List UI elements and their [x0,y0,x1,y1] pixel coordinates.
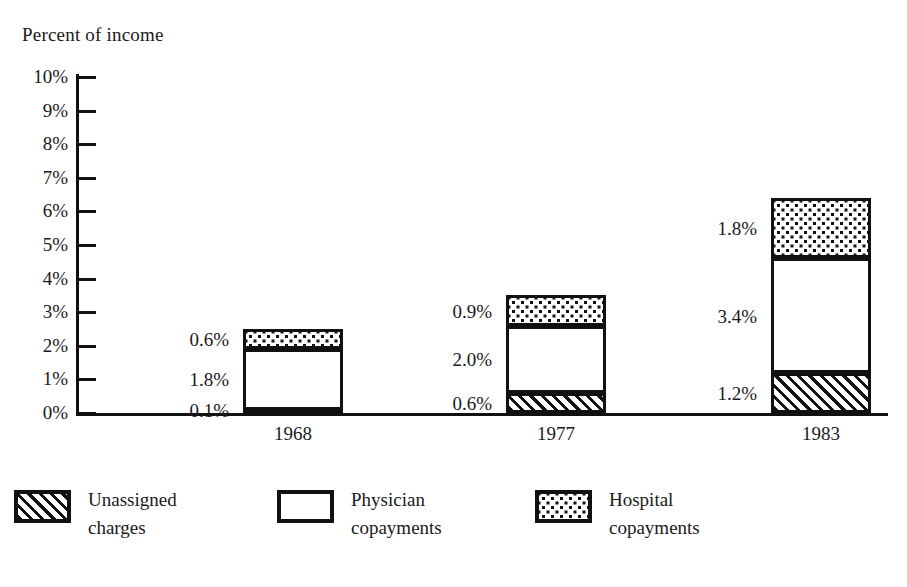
legend-swatch-hatch-icon [14,490,71,523]
chart-legend: UnassignedchargesPhysiciancopaymentsHosp… [0,486,907,581]
x-axis-label-1977: 1977 [466,424,646,443]
y-tick-label: 2% [12,336,68,355]
legend-label: Unassignedcharges [88,486,177,541]
x-axis-label-1983: 1983 [731,424,907,443]
y-tick-label: 0% [12,403,68,422]
y-tick-1 [79,378,96,381]
y-tick-9 [79,110,96,113]
y-tick-label: 4% [12,269,68,288]
legend-label-line1: Physician [351,489,425,510]
y-tick-label: 3% [12,302,68,321]
y-tick-label: 7% [12,168,68,187]
segment-value-label: 1.2% [653,384,757,403]
bar-segment [243,329,343,349]
segment-value-label: 0.6% [388,394,492,413]
legend-label-line2: copayments [609,514,700,542]
y-tick-0 [79,412,96,415]
segment-value-label: 2.0% [388,350,492,369]
segment-value-label: 1.8% [653,219,757,238]
legend-swatch-dots-icon [535,490,592,523]
y-tick-10 [79,76,96,79]
y-tick-label: 9% [12,101,68,120]
legend-label-line1: Unassigned [88,489,177,510]
y-tick-7 [79,177,96,180]
segment-value-label: 0.1% [125,401,229,420]
y-tick-5 [79,244,96,247]
legend-swatch-white-icon [277,490,334,523]
y-tick-label: 5% [12,235,68,254]
y-tick-2 [79,345,96,348]
bar-segment [506,393,606,413]
bar-segment [771,258,871,372]
legend-label: Hospitalcopayments [609,486,700,541]
y-tick-label: 1% [12,369,68,388]
x-axis-label-1968: 1968 [203,424,383,443]
chart-figure: Percent of income 10%9%8%7%6%5%4%3%2%1%0… [0,0,907,587]
segment-value-label: 3.4% [653,307,757,326]
y-tick-label: 10% [12,67,68,86]
y-tick-label: 8% [12,134,68,153]
bar-segment [506,326,606,393]
bar-segment [243,349,343,409]
y-tick-4 [79,278,96,281]
legend-label-line2: charges [88,514,177,542]
bar-segment [243,410,343,416]
bar-segment [771,198,871,258]
legend-label-line1: Hospital [609,489,673,510]
y-tick-label: 6% [12,201,68,220]
bar-segment [506,295,606,325]
bar-segment [771,373,871,413]
legend-label: Physiciancopayments [351,486,442,541]
legend-label-line2: copayments [351,514,442,542]
y-tick-8 [79,143,96,146]
y-tick-6 [79,210,96,213]
segment-value-label: 1.8% [125,370,229,389]
segment-value-label: 0.6% [125,330,229,349]
segment-value-label: 0.9% [388,302,492,321]
y-tick-3 [79,311,96,314]
